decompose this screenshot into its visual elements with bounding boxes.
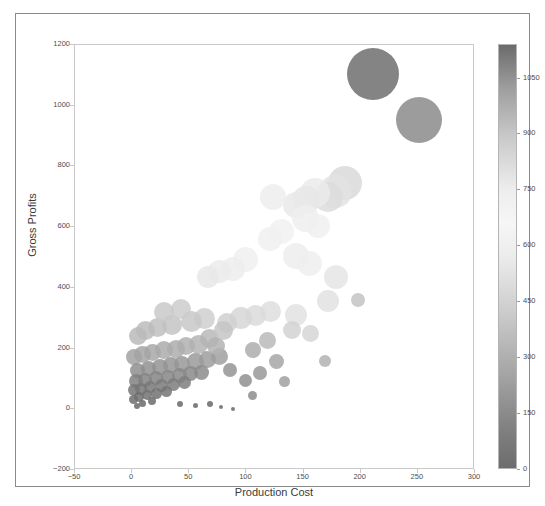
bubble-point — [279, 376, 290, 387]
y-tick-mark — [70, 348, 74, 349]
colorbar-tick-mark — [517, 245, 520, 246]
y-tick-mark — [70, 165, 74, 166]
bubble-point — [297, 251, 322, 276]
bubble-point — [161, 386, 172, 397]
bubble-point — [148, 397, 156, 405]
x-tick-label: −50 — [68, 473, 81, 481]
bubble-point — [351, 293, 365, 307]
y-tick-label: 600 — [57, 222, 70, 230]
x-axis-tick-labels: −50050100150200250300 — [74, 473, 474, 485]
x-tick-mark — [474, 469, 475, 473]
y-axis-title: Gross Profits — [26, 145, 38, 305]
x-tick-label: 250 — [411, 473, 424, 481]
bubble-point — [317, 290, 339, 312]
bubble-point — [197, 266, 219, 288]
x-tick-label: 100 — [239, 473, 252, 481]
bubble-point — [324, 265, 348, 289]
bubble-point — [248, 391, 257, 400]
colorbar-tick-mark — [517, 357, 520, 358]
bubble-point — [231, 407, 235, 411]
colorbar-tick-label: 450 — [523, 297, 536, 305]
bubble-point — [253, 366, 267, 380]
x-tick-label: 50 — [184, 473, 192, 481]
colorbar-tick-label: 600 — [523, 241, 536, 249]
bubble-point — [258, 227, 282, 251]
y-tick-label: 1000 — [53, 101, 70, 109]
bubble-point — [219, 405, 223, 409]
y-tick-mark — [70, 44, 74, 45]
colorbar-tick-label: 1050 — [523, 74, 540, 82]
x-axis-title: Production Cost — [74, 486, 474, 498]
colorbar-tick-mark — [517, 413, 520, 414]
colorbar-tick-label: 150 — [523, 409, 536, 417]
colorbar-gradient — [498, 44, 517, 469]
colorbar-tick-label: 0 — [523, 465, 527, 473]
bubble-point — [260, 184, 286, 210]
x-tick-mark — [360, 469, 361, 473]
bubble-point — [154, 302, 174, 322]
colorbar-tick-label: 750 — [523, 185, 536, 193]
bubble-point — [269, 354, 284, 369]
bubble-point — [134, 403, 140, 409]
bubble-point — [283, 321, 301, 339]
x-tick-label: 150 — [296, 473, 309, 481]
bubble-point — [178, 376, 191, 389]
y-tick-mark — [70, 105, 74, 106]
colorbar-tick-labels: 01503004506007509001050 — [519, 44, 545, 469]
x-tick-mark — [188, 469, 189, 473]
y-tick-label: 1200 — [53, 40, 70, 48]
x-tick-mark — [303, 469, 304, 473]
bubble-point — [214, 321, 233, 340]
bubble-point — [139, 400, 146, 407]
colorbar-tick-mark — [517, 301, 520, 302]
scatter-plot-area — [74, 44, 474, 469]
bubble-point — [129, 327, 147, 345]
y-tick-label: 400 — [57, 283, 70, 291]
bubble-point — [193, 403, 198, 408]
bubble-series — [75, 45, 473, 468]
bubble-point — [259, 332, 276, 349]
colorbar-tick-mark — [517, 469, 520, 470]
x-tick-mark — [131, 469, 132, 473]
y-tick-mark — [70, 226, 74, 227]
colorbar-tick-mark — [517, 189, 520, 190]
y-tick-mark — [70, 408, 74, 409]
y-tick-label: 200 — [57, 344, 70, 352]
figure-frame: −200020040060080010001200 −5005010015020… — [15, 13, 530, 487]
colorbar — [498, 44, 517, 469]
x-tick-mark — [245, 469, 246, 473]
bubble-point — [177, 401, 183, 407]
y-tick-mark — [70, 287, 74, 288]
colorbar-tick-label: 900 — [523, 129, 536, 137]
x-tick-mark — [417, 469, 418, 473]
bubble-point — [302, 325, 319, 342]
colorbar-tick-label: 300 — [523, 353, 536, 361]
bubble-point — [396, 97, 442, 143]
bubble-point — [347, 48, 399, 100]
bubble-point — [207, 401, 213, 407]
bubble-point — [319, 355, 331, 367]
x-tick-label: 200 — [353, 473, 366, 481]
colorbar-tick-mark — [517, 133, 520, 134]
bubble-point — [239, 374, 252, 387]
bubble-point — [306, 214, 330, 238]
x-tick-mark — [74, 469, 75, 473]
x-tick-label: 0 — [129, 473, 133, 481]
colorbar-tick-mark — [517, 78, 520, 79]
y-tick-label: 800 — [57, 161, 70, 169]
bubble-point — [223, 363, 237, 377]
x-tick-label: 300 — [468, 473, 481, 481]
